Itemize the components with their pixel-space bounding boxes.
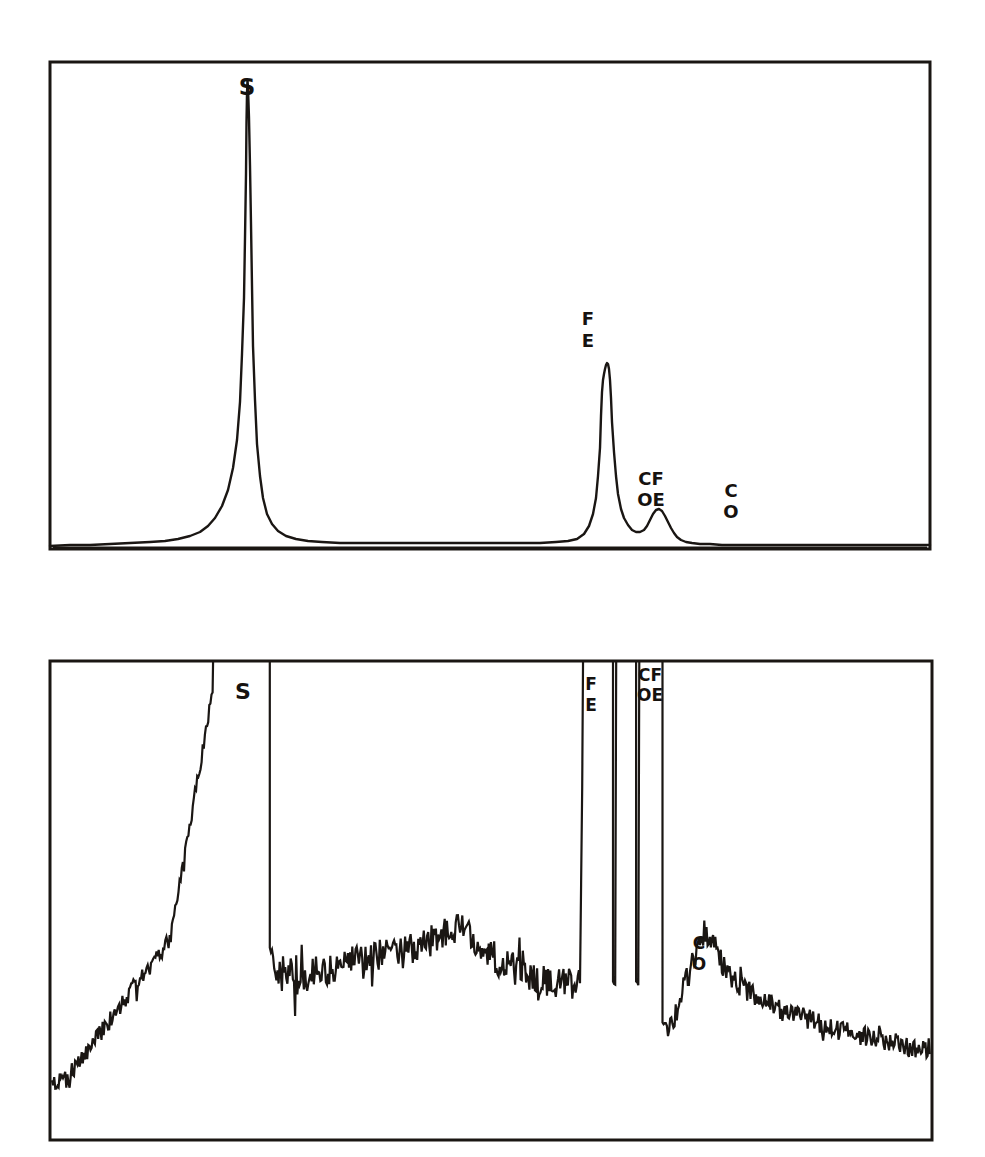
label-cobalt-top: C O [723, 480, 738, 522]
svg-text:O: O [692, 954, 706, 974]
label-iron-bottom: F E [585, 674, 597, 715]
svg-text:C: C [724, 480, 737, 501]
page-background [0, 0, 985, 1157]
label-cobalt-bottom: C O [692, 933, 706, 974]
label-iron-top: F E [582, 308, 594, 351]
svg-text:CF: CF [638, 665, 662, 685]
svg-text:OE: OE [637, 685, 663, 705]
svg-text:E: E [582, 330, 594, 351]
svg-text:E: E [585, 695, 597, 715]
label-cobalt-iron-top: CF OE [637, 468, 665, 510]
label-cobalt-iron-bottom: CF OE [637, 665, 663, 705]
figure-container: S F E CF OE C O S [0, 0, 985, 1157]
svg-text:C: C [693, 933, 705, 953]
spectra-figure: S F E CF OE C O S [0, 0, 985, 1157]
svg-text:F: F [582, 308, 594, 329]
svg-text:OE: OE [637, 489, 665, 510]
label-sulfur-bottom: S [235, 679, 251, 704]
svg-text:CF: CF [638, 468, 664, 489]
svg-text:F: F [585, 674, 597, 694]
svg-text:O: O [723, 501, 738, 522]
label-sulfur-top: S [239, 74, 256, 100]
